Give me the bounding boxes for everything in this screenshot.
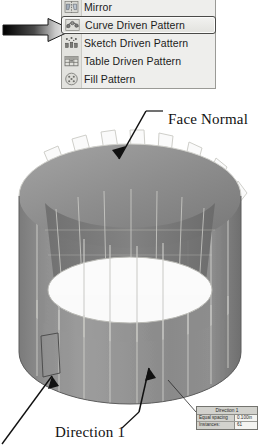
direction1-leader-right-diagonal [139, 368, 149, 412]
table-row: Equal spacing 0.100in [197, 415, 257, 423]
front-rib-lines [84, 239, 163, 323]
selected-sketch-face[interactable] [41, 333, 60, 377]
curve-driven-pattern-icon [65, 18, 80, 32]
pattern-context-menu[interactable]: Mirror Curve Driven Pattern [61, 0, 216, 89]
menu-item-table-driven-pattern[interactable]: Table Driven Pattern [62, 52, 215, 70]
direction-parameters-table: Direction 1 Equal spacing 0.100in Instan… [196, 406, 258, 430]
cylinder-top-face [19, 144, 241, 248]
table-row: Instances: 61 [197, 422, 257, 429]
direction1-leader-left [2, 376, 52, 444]
row-value: 0.100in [235, 415, 257, 422]
top-outer-edge [19, 144, 241, 196]
mirror-icon [64, 0, 79, 14]
menu-item-sketch-driven-pattern[interactable]: Sketch Driven Pattern [62, 34, 215, 52]
menu-item-fill-pattern[interactable]: Fill Pattern [62, 70, 215, 88]
fill-pattern-icon [64, 72, 79, 86]
face-normal-arrowhead [112, 146, 126, 159]
face-normal-label: Face Normal [168, 111, 248, 128]
direction1-left-arrowhead [48, 376, 59, 389]
cylinder-front-lower-wall [19, 290, 241, 404]
face-normal-leader-diagonal [119, 111, 146, 159]
menu-item-label: Curve Driven Pattern [85, 20, 185, 31]
table-leader [168, 380, 196, 412]
pattern-fins-back [44, 130, 247, 207]
inner-rib-lines [45, 189, 215, 288]
row-key: Instances: [197, 422, 235, 429]
cylinder-outer-wall [19, 196, 241, 404]
cylinder-bore-opening [48, 257, 212, 323]
menu-item-label: Fill Pattern [84, 74, 135, 85]
bore-edge [48, 257, 212, 323]
bottom-edge [19, 352, 241, 404]
menu-item-label: Sketch Driven Pattern [84, 38, 188, 49]
row-value: 61 [235, 422, 257, 429]
direction1-right-arrowhead [145, 368, 156, 381]
sketch-driven-pattern-icon [64, 36, 79, 50]
menu-item-label: Mirror [84, 2, 112, 13]
direction-1-label: Direction 1 [55, 424, 125, 441]
callout-leaders [2, 111, 196, 444]
table-driven-pattern-icon [64, 54, 79, 68]
menu-item-curve-driven-pattern[interactable]: Curve Driven Pattern [61, 16, 216, 34]
outer-rib-lines [37, 208, 228, 406]
menu-item-mirror[interactable]: Mirror [62, 0, 215, 16]
cylinder-inner-wall [45, 203, 215, 310]
menu-item-label: Table Driven Pattern [84, 56, 181, 67]
front-lower-rib-lines [37, 296, 228, 406]
table-header: Direction 1 [197, 407, 257, 415]
row-key: Equal spacing [197, 415, 235, 422]
